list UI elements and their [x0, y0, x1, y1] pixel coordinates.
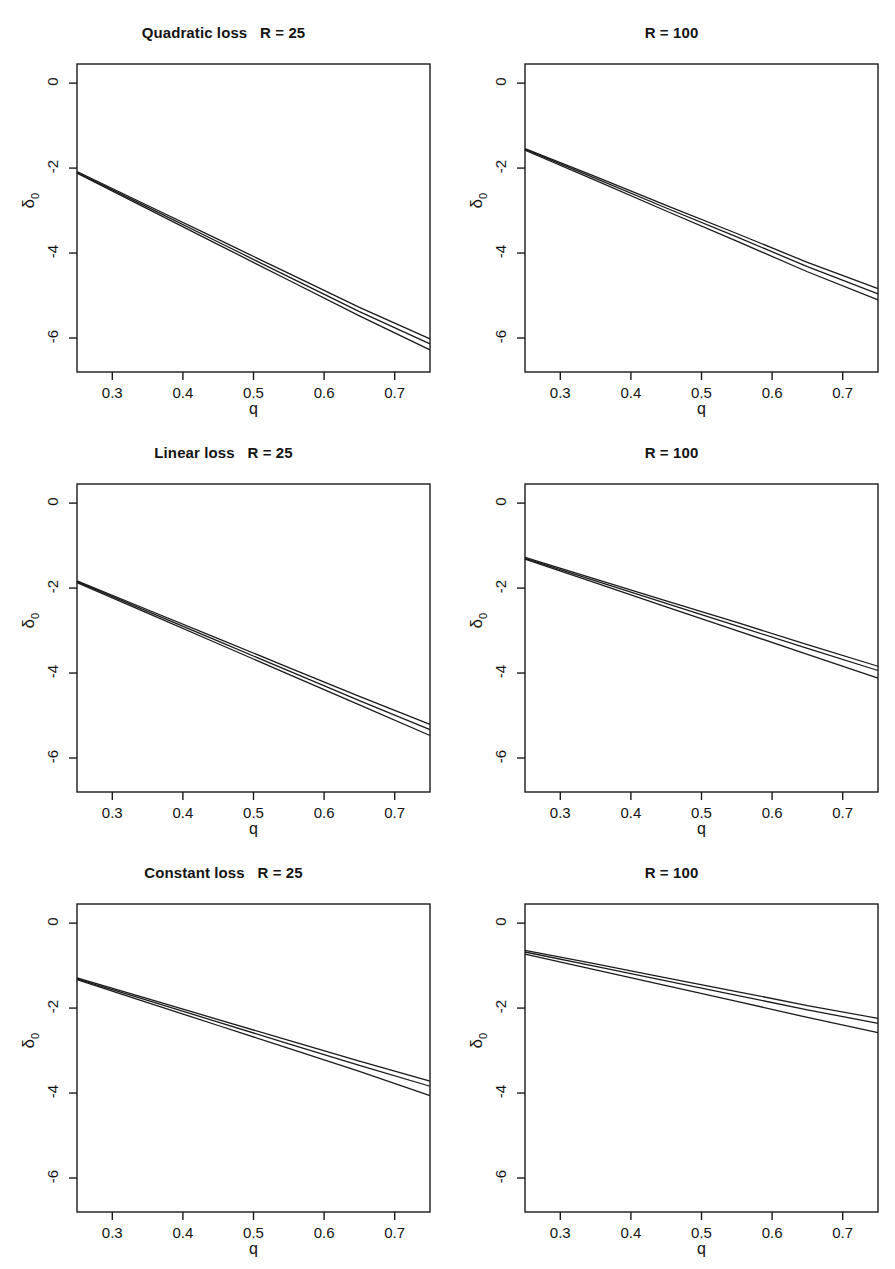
data-line-upper: [525, 149, 878, 289]
plot-frame: [77, 484, 430, 792]
plot-canvas: [0, 840, 447, 1260]
data-line-middle: [77, 979, 430, 1086]
y-axis-label: δ0: [467, 1021, 488, 1061]
y-axis-label-base: δ: [19, 199, 38, 208]
y-axis-label-subscript: 0: [29, 193, 41, 199]
y-tick-label: -6: [492, 742, 509, 772]
x-tick-label: 0.4: [163, 384, 203, 401]
plot-canvas: [0, 420, 447, 840]
panel-constant-r100: R = 1000-2-4-60.30.40.50.60.7δ0q: [448, 840, 895, 1260]
panel-quadratic-r25: Quadratic loss R = 250-2-4-60.30.40.50.6…: [0, 0, 447, 420]
panel-linear-r100: R = 1000-2-4-60.30.40.50.60.7δ0q: [448, 420, 895, 840]
x-tick-label: 0.6: [304, 804, 344, 821]
x-tick-label: 0.4: [163, 1224, 203, 1241]
x-tick-label: 0.4: [163, 804, 203, 821]
y-tick-label: -2: [492, 992, 509, 1022]
y-tick-label: -4: [44, 237, 61, 267]
y-axis-label: δ0: [467, 181, 488, 221]
x-tick-label: 0.7: [823, 384, 863, 401]
data-line-middle: [77, 582, 430, 730]
x-axis-label: q: [77, 1240, 430, 1258]
y-tick-label: -6: [492, 322, 509, 352]
y-axis-label: δ0: [19, 1021, 40, 1061]
x-tick-label: 0.6: [304, 384, 344, 401]
data-line-upper: [525, 950, 878, 1018]
y-tick-label: 0: [44, 487, 61, 517]
x-axis-label: q: [525, 1240, 878, 1258]
y-axis-label: δ0: [467, 601, 488, 641]
data-line-lower: [525, 150, 878, 300]
x-tick-label: 0.5: [234, 384, 274, 401]
y-tick-label: -2: [44, 992, 61, 1022]
y-tick-label: -6: [44, 322, 61, 352]
panel-quadratic-r100: R = 1000-2-4-60.30.40.50.60.7δ0q: [448, 0, 895, 420]
x-tick-label: 0.6: [752, 804, 792, 821]
y-axis-label-base: δ: [467, 1039, 486, 1048]
x-tick-label: 0.5: [234, 804, 274, 821]
y-axis-label-base: δ: [19, 1039, 38, 1048]
panel-linear-r25: Linear loss R = 250-2-4-60.30.40.50.60.7…: [0, 420, 447, 840]
plot-canvas: [448, 840, 895, 1260]
data-line-lower: [77, 980, 430, 1096]
y-axis-label: δ0: [19, 181, 40, 221]
x-tick-label: 0.6: [752, 1224, 792, 1241]
data-line-middle: [77, 172, 430, 344]
data-line-lower: [77, 583, 430, 736]
plot-canvas: [448, 420, 895, 840]
data-line-lower: [525, 954, 878, 1033]
plot-canvas: [448, 0, 895, 420]
y-tick-label: -2: [44, 152, 61, 182]
y-axis-label-base: δ: [467, 619, 486, 628]
x-tick-label: 0.7: [375, 1224, 415, 1241]
plot-frame: [525, 64, 878, 372]
y-axis-label-subscript: 0: [477, 193, 489, 199]
y-tick-label: -4: [492, 1077, 509, 1107]
data-line-upper: [77, 978, 430, 1081]
panel-constant-r25: Constant loss R = 250-2-4-60.30.40.50.60…: [0, 840, 447, 1260]
y-tick-label: -6: [44, 1162, 61, 1192]
y-tick-label: -4: [492, 657, 509, 687]
data-line-middle: [525, 149, 878, 293]
data-line-middle: [525, 952, 878, 1023]
x-axis-label: q: [77, 820, 430, 838]
y-tick-label: -2: [492, 572, 509, 602]
x-tick-label: 0.5: [234, 1224, 274, 1241]
data-line-upper: [77, 171, 430, 338]
x-tick-label: 0.5: [682, 384, 722, 401]
y-axis-label: δ0: [19, 601, 40, 641]
y-tick-label: -2: [44, 572, 61, 602]
x-tick-label: 0.4: [611, 804, 651, 821]
x-tick-label: 0.3: [92, 1224, 132, 1241]
x-tick-label: 0.7: [823, 1224, 863, 1241]
figure-panel-grid: Quadratic loss R = 250-2-4-60.30.40.50.6…: [0, 0, 895, 1269]
x-tick-label: 0.7: [375, 384, 415, 401]
x-axis-label: q: [525, 820, 878, 838]
y-tick-label: 0: [44, 907, 61, 937]
x-tick-label: 0.6: [752, 384, 792, 401]
y-tick-label: -6: [44, 742, 61, 772]
x-tick-label: 0.5: [682, 804, 722, 821]
x-tick-label: 0.3: [540, 384, 580, 401]
data-line-middle: [525, 558, 878, 670]
y-tick-label: -2: [492, 152, 509, 182]
plot-frame: [525, 904, 878, 1212]
y-axis-label-subscript: 0: [29, 613, 41, 619]
data-line-lower: [525, 559, 878, 678]
y-axis-label-base: δ: [19, 619, 38, 628]
y-tick-label: -4: [44, 1077, 61, 1107]
y-tick-label: -4: [492, 237, 509, 267]
y-tick-label: 0: [492, 487, 509, 517]
y-axis-label-subscript: 0: [477, 613, 489, 619]
x-tick-label: 0.5: [682, 1224, 722, 1241]
y-axis-label-subscript: 0: [477, 1033, 489, 1039]
x-tick-label: 0.4: [611, 384, 651, 401]
y-tick-label: 0: [492, 67, 509, 97]
y-tick-label: -4: [44, 657, 61, 687]
x-tick-label: 0.4: [611, 1224, 651, 1241]
x-tick-label: 0.3: [540, 804, 580, 821]
x-tick-label: 0.3: [540, 1224, 580, 1241]
x-axis-label: q: [77, 400, 430, 418]
y-axis-label-subscript: 0: [29, 1033, 41, 1039]
data-line-lower: [77, 173, 430, 350]
plot-canvas: [0, 0, 447, 420]
